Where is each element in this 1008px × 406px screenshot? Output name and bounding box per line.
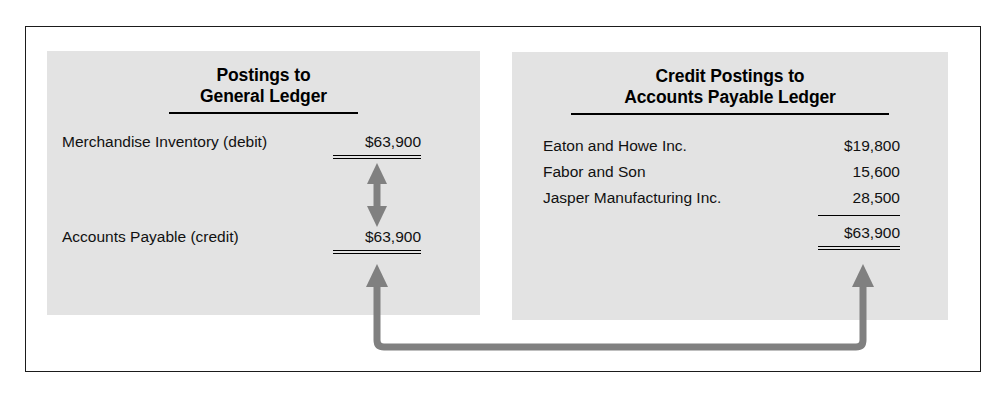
creditor-amount-jasper-manufacturing: 28,500 (818, 189, 900, 207)
general-ledger-title-rule (169, 112, 358, 114)
general-ledger-title: Postings to General Ledger (47, 65, 480, 107)
creditor-amount-fabor-and-son: 15,600 (818, 163, 900, 181)
ledger-row-label: Merchandise Inventory (debit) (62, 133, 267, 151)
creditor-row-jasper-manufacturing: Jasper Manufacturing Inc. (543, 189, 721, 207)
creditor-row-fabor-and-son: Fabor and Son (543, 163, 646, 181)
ledger-row-merchandise-inventory: Merchandise Inventory (debit) (62, 133, 267, 151)
double-underline-creditor-total (818, 246, 900, 250)
general-ledger-title-line2: General Ledger (200, 86, 327, 106)
general-ledger-title-line1: Postings to (216, 65, 310, 85)
double-underline-merchandise-inventory (333, 155, 421, 159)
accounting-posting-diagram: Postings to General Ledger Merchandise I… (0, 0, 1008, 406)
double-underline-accounts-payable (333, 250, 421, 254)
ap-ledger-title-line2: Accounts Payable Ledger (624, 87, 836, 107)
ledger-row-accounts-payable: Accounts Payable (credit) (62, 228, 239, 246)
ap-ledger-title-line1: Credit Postings to (656, 66, 805, 86)
ledger-row-label: Accounts Payable (credit) (62, 228, 239, 246)
accounts-payable-ledger-panel: Credit Postings to Accounts Payable Ledg… (512, 52, 948, 320)
subtotal-rule (818, 215, 900, 216)
ledger-amount-accounts-payable: $63,900 (333, 228, 421, 246)
accounts-payable-ledger-title: Credit Postings to Accounts Payable Ledg… (512, 66, 948, 108)
accounts-payable-ledger-title-rule (571, 113, 889, 115)
creditor-amount-eaton-and-howe: $19,800 (818, 137, 900, 155)
general-ledger-panel: Postings to General Ledger (47, 51, 480, 315)
creditor-row-eaton-and-howe: Eaton and Howe Inc. (543, 137, 687, 155)
ledger-amount-merchandise-inventory: $63,900 (333, 133, 421, 151)
creditor-total-amount: $63,900 (818, 224, 900, 242)
